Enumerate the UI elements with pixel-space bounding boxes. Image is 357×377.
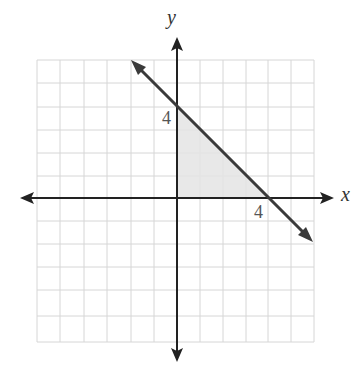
axes [20,37,334,362]
y-axis-label: y [167,6,176,29]
x-axis-label: x [341,183,350,206]
boundary-line [131,60,313,242]
y-tick-label-4: 4 [162,108,171,129]
x-tick-label-4: 4 [254,202,263,223]
coordinate-plane [0,0,357,377]
